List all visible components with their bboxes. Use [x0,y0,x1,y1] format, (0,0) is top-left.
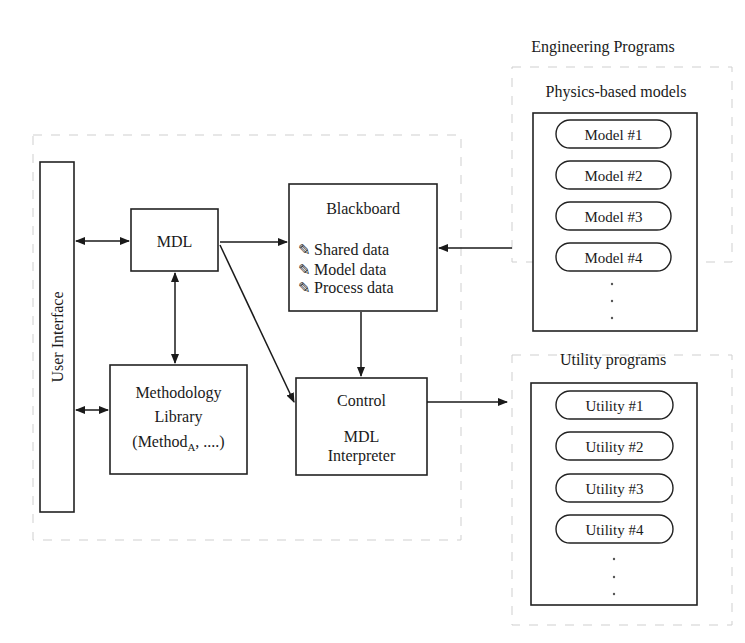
method-prefix: (Method [132,433,187,451]
pencil-icon: ✎ [298,242,311,258]
ellipsis-dot [611,317,613,319]
blackboard-title: Blackboard [326,200,400,217]
user-interface-label: User Interface [49,291,66,382]
pencil-icon: ✎ [298,280,311,296]
model-3-label: Model #3 [585,209,643,225]
control-label: Control [337,392,386,409]
mdl-interpreter-mdl-label: MDL [344,428,380,445]
methodology-label: Methodology [135,384,221,402]
utility-2-label: Utility #2 [586,439,644,455]
method-subscript: A [187,441,195,453]
shared-data-label: Shared data [314,241,389,258]
physics-models-title: Physics-based models [546,83,687,101]
architecture-diagram: Engineering Programs Physics-based model… [0,0,745,643]
ellipsis-dot [613,593,615,595]
mdl-label: MDL [157,233,193,250]
pencil-icon: ✎ [298,262,311,278]
ellipsis-dot [613,558,615,560]
utility-3-label: Utility #3 [586,481,644,497]
process-data-label: Process data [314,279,394,296]
model-4-label: Model #4 [585,250,643,266]
utility-1-label: Utility #1 [586,398,644,414]
ellipsis-dot [611,283,613,285]
model-data-label: Model data [314,261,386,278]
method-suffix: , ....) [195,433,224,451]
utility-4-label: Utility #4 [586,522,644,538]
library-label: Library [155,408,203,426]
engineering-programs-title: Engineering Programs [531,38,675,56]
ellipsis-dot [613,576,615,578]
model-1-label: Model #1 [585,127,643,143]
model-2-label: Model #2 [585,168,643,184]
interpreter-label: Interpreter [328,447,396,465]
ellipsis-dot [611,300,613,302]
utility-programs-title: Utility programs [560,351,666,369]
